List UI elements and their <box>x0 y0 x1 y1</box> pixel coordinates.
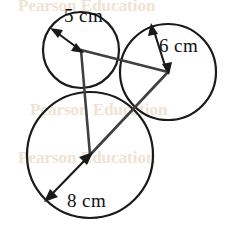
triangle-side-large-to-small <box>81 50 90 155</box>
geometry-figure-root: Pearson Education Pearson Education Pear… <box>0 0 229 239</box>
radius-arrow-small <box>50 28 84 53</box>
label-large-radius: 8 cm <box>67 190 106 211</box>
diagram-canvas: 5 cm 6 cm 8 cm <box>0 0 229 239</box>
label-medium-radius: 6 cm <box>159 35 198 56</box>
triangle-side-medium-to-large <box>90 72 168 155</box>
label-small-radius: 5 cm <box>64 5 103 26</box>
